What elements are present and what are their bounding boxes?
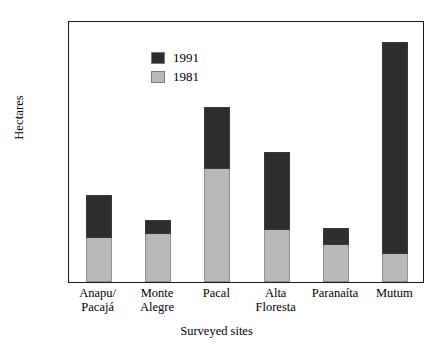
bar-segment-1981 <box>264 229 290 282</box>
y-axis-title: Hectares <box>12 63 27 173</box>
chart-legend: 1991 1981 <box>151 49 199 87</box>
bar-segment-1981 <box>145 233 171 282</box>
bar-segment-1991 <box>323 228 349 245</box>
x-axis-tick-label-line2: Floresta <box>232 301 320 315</box>
x-axis-tick-label: Mutum <box>350 287 433 301</box>
bar-group <box>264 20 290 282</box>
bar-segment-1991 <box>382 42 408 254</box>
bar-segment-1981 <box>204 168 230 282</box>
bar-group <box>204 20 230 282</box>
legend-item-1981: 1981 <box>151 68 199 85</box>
bar-group <box>382 20 408 282</box>
bar-segment-1981 <box>323 244 349 282</box>
legend-label-1981: 1981 <box>173 70 199 83</box>
stacked-bar-chart: Hectares 9000800070006000500040003000200… <box>0 0 433 351</box>
bar-segment-1981 <box>86 237 112 282</box>
bar-group <box>323 20 349 282</box>
legend-swatch-1981-icon <box>151 71 165 83</box>
bar-segment-1991 <box>204 107 230 169</box>
x-axis-tick-label-line2: Alegre <box>113 301 201 315</box>
bar-segment-1991 <box>145 220 171 234</box>
bar-segment-1981 <box>382 253 408 282</box>
bar-segment-1991 <box>264 152 290 230</box>
x-axis-title: Surveyed sites <box>0 324 433 339</box>
plot-area: 1991 1981 <box>68 21 424 283</box>
legend-label-1991: 1991 <box>173 51 199 64</box>
legend-item-1991: 1991 <box>151 49 199 66</box>
x-axis-tick-label-line1: Mutum <box>350 287 433 301</box>
bar-group <box>86 20 112 282</box>
bar-segment-1991 <box>86 195 112 238</box>
legend-swatch-1991-icon <box>151 52 165 64</box>
